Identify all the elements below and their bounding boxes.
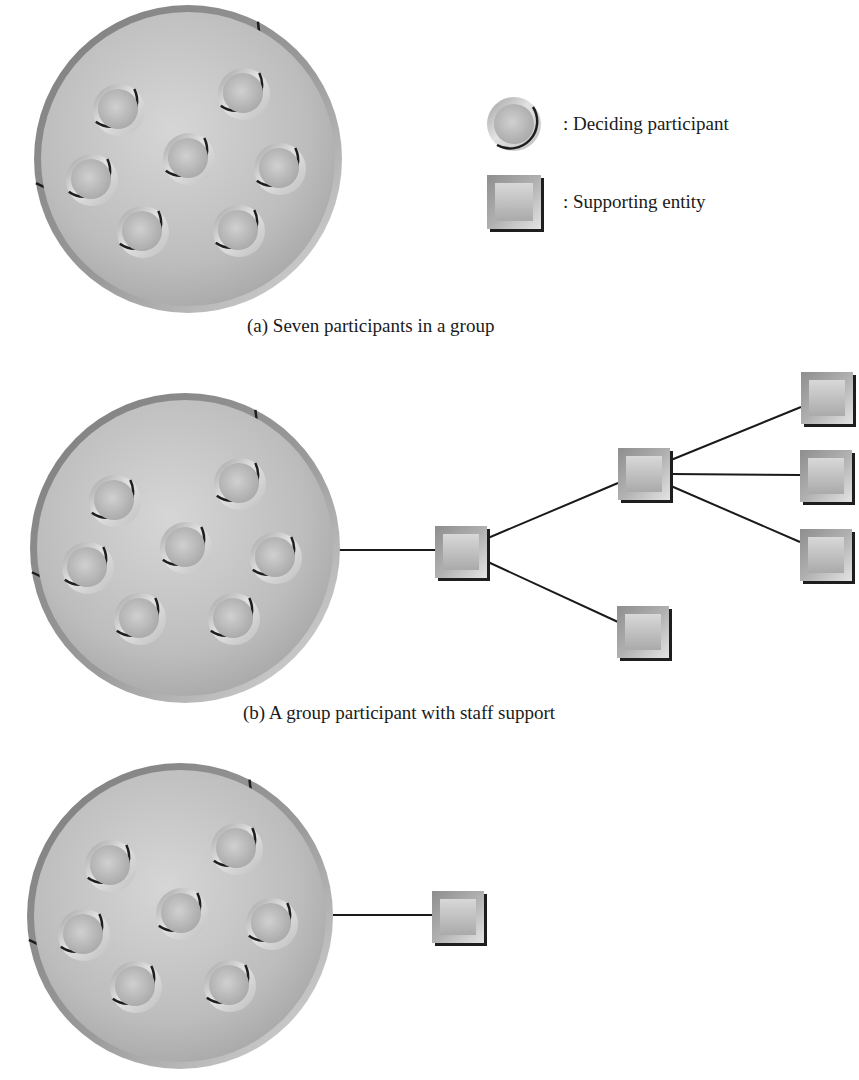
deciding-participant-icon xyxy=(214,458,266,510)
link-line-panel-b xyxy=(488,483,618,538)
deciding-participant-icon xyxy=(156,888,208,940)
deciding-participant-icon xyxy=(114,593,166,645)
link-line-panel-b xyxy=(671,486,800,542)
deciding-participant-icon xyxy=(110,961,162,1013)
link-line-panel-b xyxy=(671,407,801,460)
link-line-panel-b xyxy=(671,474,800,475)
deciding-participant-icon xyxy=(213,205,265,257)
deciding-participant-icon xyxy=(204,960,256,1012)
deciding-participant-icon xyxy=(117,206,169,258)
supporting-entity-icon xyxy=(435,526,490,581)
supporting-entity-icon xyxy=(801,372,856,427)
deciding-participant-icon xyxy=(211,823,263,875)
supporting-entity-icon xyxy=(486,174,546,234)
legend-label-supporting-entity: : Supporting entity xyxy=(563,192,706,211)
deciding-participant-icon xyxy=(485,95,547,157)
supporting-entity-icon xyxy=(800,450,855,505)
supporting-entity-icon xyxy=(617,606,672,661)
deciding-participant-icon xyxy=(250,532,302,584)
deciding-participant-icon xyxy=(66,154,118,206)
diagram-canvas xyxy=(0,0,859,1080)
caption-panel-b: (b) A group participant with staff suppo… xyxy=(243,703,555,722)
deciding-participant-icon xyxy=(246,898,298,950)
deciding-participant-icon xyxy=(160,522,212,574)
link-line-panel-b xyxy=(488,562,618,622)
deciding-participant-icon xyxy=(163,133,215,185)
deciding-participant-icon xyxy=(93,84,145,136)
supporting-entity-icon xyxy=(618,448,673,503)
supporting-entity-icon xyxy=(432,891,487,946)
caption-panel-a: (a) Seven participants in a group xyxy=(247,316,494,335)
deciding-participant-icon xyxy=(62,542,114,594)
group-decision-diagram: : Deciding participant : Supporting enti… xyxy=(0,0,859,1080)
deciding-participant-icon xyxy=(89,475,141,527)
links-layer xyxy=(307,407,801,915)
deciding-participant-icon xyxy=(218,68,270,120)
shapes-layer xyxy=(27,5,856,1069)
deciding-participant-icon xyxy=(58,909,110,961)
deciding-participant-icon xyxy=(85,840,137,892)
deciding-participant-icon xyxy=(208,593,260,645)
deciding-participant-icon xyxy=(254,143,306,195)
legend-label-deciding-participant: : Deciding participant xyxy=(563,114,729,133)
supporting-entity-icon xyxy=(800,529,855,584)
